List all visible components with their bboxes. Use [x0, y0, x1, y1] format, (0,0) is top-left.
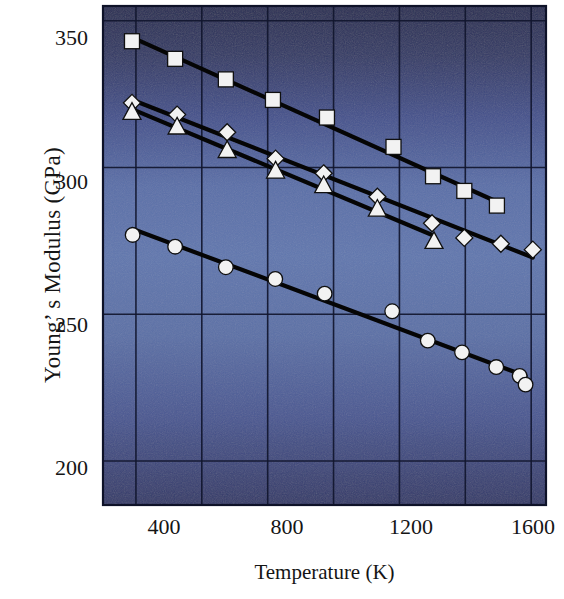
plot-background: [103, 6, 546, 505]
data-point-square: [489, 198, 504, 213]
data-point-circle: [518, 377, 533, 392]
data-point-square: [319, 110, 334, 125]
data-point-circle: [268, 272, 283, 287]
data-point-circle: [489, 360, 504, 375]
data-point-square: [386, 139, 401, 154]
data-point-square: [168, 51, 183, 66]
data-point-circle: [455, 345, 470, 360]
data-point-circle: [385, 304, 400, 319]
data-point-circle: [317, 286, 332, 301]
chart-figure: Young’ s Modulus (GPa) 350 300 250 200 4…: [0, 0, 564, 599]
data-point-square: [265, 92, 280, 107]
plot-canvas: [0, 0, 564, 599]
data-point-circle: [219, 260, 234, 275]
data-point-square: [124, 34, 139, 49]
data-point-circle: [125, 228, 140, 243]
data-point-square: [218, 72, 233, 87]
data-point-square: [426, 169, 441, 184]
data-point-square: [457, 183, 472, 198]
data-point-circle: [420, 333, 435, 348]
data-point-circle: [168, 239, 183, 254]
